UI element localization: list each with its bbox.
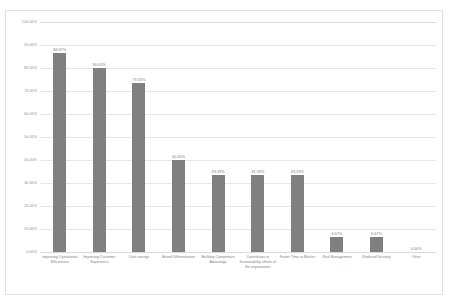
- chart-frame: 0.00%10.00%20.00%30.00%40.00%50.00%60.00…: [5, 10, 443, 295]
- bar[interactable]: [93, 68, 106, 252]
- bar-value-label: 40.00%: [172, 155, 185, 159]
- bar-series: 86.67%80.00%73.33%40.00%33.33%33.33%33.3…: [40, 22, 436, 252]
- bar-group: 73.33%: [119, 22, 159, 252]
- bar[interactable]: [370, 237, 383, 252]
- gridline: [40, 252, 436, 253]
- bar-group: 86.67%: [40, 22, 80, 252]
- y-axis-tick-label: 60.00%: [24, 112, 37, 116]
- bar-value-label: 80.00%: [93, 63, 106, 67]
- x-axis-category-label: Reduced Scrutiny: [357, 255, 397, 295]
- bar-value-label: 33.33%: [212, 170, 225, 174]
- bar-group: 40.00%: [159, 22, 199, 252]
- x-axis-category-label: Other: [396, 255, 436, 295]
- bar-group: 33.33%: [278, 22, 318, 252]
- bar[interactable]: [132, 83, 145, 252]
- bar-value-label: 33.33%: [291, 170, 304, 174]
- y-axis-tick-label: 40.00%: [24, 158, 37, 162]
- bar-group: 80.00%: [80, 22, 120, 252]
- bar-value-label: 86.67%: [53, 48, 66, 52]
- x-axis: Improving Operational EfficienciesImprov…: [40, 255, 436, 295]
- y-axis: 0.00%10.00%20.00%30.00%40.00%50.00%60.00…: [6, 11, 40, 294]
- bar-group: 33.33%: [238, 22, 278, 252]
- y-axis-tick-label: 0.00%: [26, 250, 37, 254]
- bar[interactable]: [330, 237, 343, 252]
- bar-group: 33.33%: [198, 22, 238, 252]
- y-axis-tick-label: 50.00%: [24, 135, 37, 139]
- x-axis-category-label: Building Competitive Advantage: [198, 255, 238, 295]
- bar-value-label: 6.67%: [331, 232, 342, 236]
- y-axis-tick-label: 70.00%: [24, 89, 37, 93]
- bar-value-label: 6.67%: [371, 232, 382, 236]
- x-axis-category-label: Faster Time to Market: [278, 255, 318, 295]
- bar-group: 6.67%: [317, 22, 357, 252]
- bar[interactable]: [53, 53, 66, 252]
- x-axis-category-label: Improving Operational Efficiencies: [40, 255, 80, 295]
- bar[interactable]: [172, 160, 185, 252]
- bar[interactable]: [291, 175, 304, 252]
- bar-group: 6.67%: [357, 22, 397, 252]
- y-axis-tick-label: 100.00%: [22, 20, 37, 24]
- x-axis-category-label: Brand Differentiation: [159, 255, 199, 295]
- x-axis-category-label: Improving Customer Experience: [80, 255, 120, 295]
- y-axis-tick-label: 10.00%: [24, 227, 37, 231]
- bar-value-label: 0.00%: [411, 247, 422, 251]
- bar-group: 0.00%: [396, 22, 436, 252]
- x-axis-category-label: Contributes to Sustainability efforts of…: [238, 255, 278, 295]
- y-axis-tick-label: 20.00%: [24, 204, 37, 208]
- bar-value-label: 33.33%: [251, 170, 264, 174]
- x-axis-category-label: Risk Management: [317, 255, 357, 295]
- y-axis-tick-label: 90.00%: [24, 43, 37, 47]
- plot-area: 86.67%80.00%73.33%40.00%33.33%33.33%33.3…: [40, 22, 436, 252]
- bar[interactable]: [251, 175, 264, 252]
- x-axis-category-label: Cost savings: [119, 255, 159, 295]
- y-axis-tick-label: 30.00%: [24, 181, 37, 185]
- bar-value-label: 73.33%: [132, 78, 145, 82]
- y-axis-tick-label: 80.00%: [24, 66, 37, 70]
- chart-plot-wrapper: 0.00%10.00%20.00%30.00%40.00%50.00%60.00…: [6, 11, 442, 294]
- bar[interactable]: [212, 175, 225, 252]
